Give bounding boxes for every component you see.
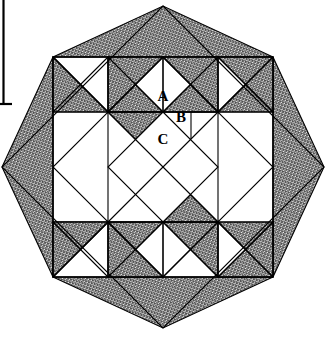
figure-root: A B C — [0, 0, 327, 339]
white-wedge-left — [53, 112, 108, 222]
label-b: B — [176, 109, 186, 125]
label-c: C — [158, 131, 169, 147]
quilt-block-diagram: A B C — [0, 0, 327, 339]
page-border-fragment — [0, 0, 12, 104]
outer-triangle-top — [53, 6, 273, 57]
outer-triangle-right — [273, 57, 324, 277]
label-a: A — [158, 88, 169, 104]
outer-triangle-left — [2, 57, 53, 277]
white-wedge-right — [218, 112, 273, 222]
outer-triangle-bottom — [53, 277, 273, 328]
